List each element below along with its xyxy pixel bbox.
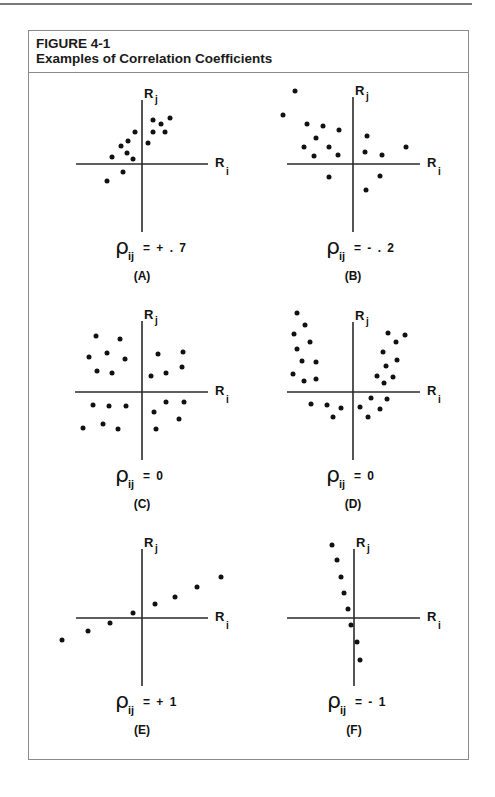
rho-subscript: ij xyxy=(339,250,345,262)
data-point xyxy=(331,415,336,420)
data-point xyxy=(168,116,173,121)
data-point xyxy=(181,350,186,355)
scatter-panel-c: RjRiρij= 0(C) xyxy=(75,307,229,511)
data-point xyxy=(295,347,300,352)
data-point xyxy=(355,640,360,645)
data-point xyxy=(153,602,158,607)
data-point xyxy=(124,404,129,409)
panel-label: (F) xyxy=(346,723,361,737)
data-point xyxy=(349,623,354,628)
data-point xyxy=(292,332,297,337)
y-axis-label-sub: j xyxy=(366,543,370,554)
x-axis-label: R xyxy=(215,383,225,398)
data-point xyxy=(339,406,344,411)
scatter-panel-d: RjRiρij= 0(D) xyxy=(287,308,441,511)
data-point xyxy=(308,340,313,345)
y-axis-label: R xyxy=(144,86,154,101)
data-point xyxy=(385,397,390,402)
data-point xyxy=(321,124,326,129)
scatter-panel-a: RjRiρij= + . 7(A) xyxy=(76,86,229,283)
data-point xyxy=(300,359,305,364)
data-point xyxy=(131,611,136,616)
data-point xyxy=(380,153,385,158)
data-point xyxy=(133,130,138,135)
data-point xyxy=(180,365,185,370)
data-point xyxy=(125,151,130,156)
data-point xyxy=(364,188,369,193)
panel-label: (E) xyxy=(134,723,150,737)
data-point xyxy=(182,400,187,405)
data-point xyxy=(219,575,224,580)
data-point xyxy=(86,629,91,634)
rho-subscript: ij xyxy=(128,478,134,490)
data-point xyxy=(281,113,286,118)
rho-value: = 0 xyxy=(354,469,376,483)
data-point xyxy=(394,340,399,345)
x-axis-label-sub: i xyxy=(438,166,441,177)
data-point xyxy=(378,174,383,179)
data-point xyxy=(123,357,128,362)
data-point xyxy=(91,403,96,408)
data-point xyxy=(87,355,92,360)
data-point xyxy=(363,150,368,155)
data-point xyxy=(164,371,169,376)
x-axis-label-sub: i xyxy=(438,620,441,631)
data-point xyxy=(314,136,319,141)
data-point xyxy=(346,607,351,612)
rho-value: = + . 7 xyxy=(143,241,188,255)
rho-subscript: ij xyxy=(128,704,134,716)
data-point xyxy=(386,331,391,336)
data-point xyxy=(152,410,157,415)
panel-label: (D) xyxy=(345,497,362,511)
rho-symbol: ρ xyxy=(115,688,129,713)
data-point xyxy=(309,402,314,407)
panel-label: (B) xyxy=(345,269,362,283)
data-point xyxy=(121,170,126,175)
rho-symbol: ρ xyxy=(115,462,129,487)
data-point xyxy=(163,130,168,135)
data-point xyxy=(381,350,386,355)
data-point xyxy=(151,130,156,135)
rho-symbol: ρ xyxy=(115,234,129,259)
rho-subscript: ij xyxy=(339,478,345,490)
data-point xyxy=(110,155,115,160)
data-point xyxy=(177,417,182,422)
x-axis-label-sub: i xyxy=(226,394,229,405)
scatter-panel-e: RjRiρij= + 1(E) xyxy=(60,535,230,737)
data-point xyxy=(375,374,380,379)
data-point xyxy=(110,371,115,376)
scatter-panels: RjRiρij= + . 7(A)RjRiρij= - . 2(B)RjRiρi… xyxy=(0,0,495,797)
data-point xyxy=(107,404,112,409)
data-point xyxy=(366,415,371,420)
rho-symbol: ρ xyxy=(327,688,341,713)
data-point xyxy=(342,591,347,596)
x-axis-label-sub: i xyxy=(226,166,229,177)
y-axis-label: R xyxy=(356,535,366,550)
x-axis-label: R xyxy=(427,155,437,170)
data-point xyxy=(60,638,65,643)
data-point xyxy=(327,145,332,150)
data-point xyxy=(156,352,161,357)
panel-label: (A) xyxy=(134,269,151,283)
rho-value: = 0 xyxy=(143,469,165,483)
data-point xyxy=(358,405,363,410)
data-point xyxy=(149,374,154,379)
data-point xyxy=(116,427,121,432)
data-point xyxy=(291,372,296,377)
rho-value: = - . 2 xyxy=(354,241,396,255)
rho-symbol: ρ xyxy=(326,462,340,487)
y-axis-label: R xyxy=(144,535,154,550)
data-point xyxy=(404,145,409,150)
data-point xyxy=(195,585,200,590)
x-axis-label: R xyxy=(427,609,437,624)
data-point xyxy=(339,575,344,580)
rho-subscript: ij xyxy=(340,704,346,716)
y-axis-label-sub: j xyxy=(365,91,369,102)
rho-value: = - 1 xyxy=(355,695,387,709)
data-point xyxy=(384,364,389,369)
data-point xyxy=(336,153,341,158)
data-point xyxy=(95,369,100,374)
data-point xyxy=(94,334,99,339)
y-axis-label-sub: j xyxy=(154,94,158,105)
y-axis-label: R xyxy=(355,308,365,323)
